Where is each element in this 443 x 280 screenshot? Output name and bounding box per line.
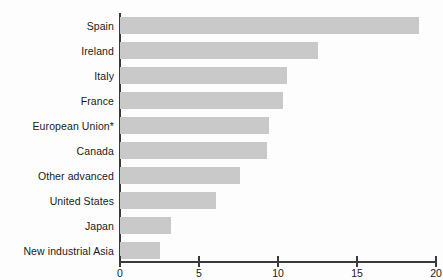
bar: [120, 42, 318, 59]
category-label-italy: Italy: [94, 70, 114, 82]
bar-row: France: [0, 88, 443, 113]
x-tick: [198, 256, 199, 267]
x-tick: [356, 256, 357, 267]
x-tick-label: 15: [351, 267, 363, 279]
bar-chart: SpainIrelandItalyFranceEuropean Union*Ca…: [0, 0, 443, 280]
bar: [120, 167, 240, 184]
category-label-united-states: United States: [50, 195, 114, 207]
category-label-other-advanced: Other advanced: [38, 170, 114, 182]
x-tick-label: 10: [272, 267, 284, 279]
bar-row: Ireland: [0, 38, 443, 63]
bar: [120, 117, 269, 134]
bar: [120, 17, 419, 34]
bar-row: United States: [0, 188, 443, 213]
category-label-canada: Canada: [77, 145, 114, 157]
bar-row: Other advanced: [0, 163, 443, 188]
bar-row: Japan: [0, 213, 443, 238]
bar: [120, 217, 171, 234]
bar-row: Canada: [0, 138, 443, 163]
category-label-ireland: Ireland: [81, 45, 114, 57]
bar-row: Spain: [0, 13, 443, 38]
category-label-spain: Spain: [87, 20, 114, 32]
plot-area: SpainIrelandItalyFranceEuropean Union*Ca…: [0, 0, 443, 280]
bar: [120, 192, 216, 209]
bar: [120, 67, 287, 84]
bar-row: European Union*: [0, 113, 443, 138]
bar: [120, 242, 160, 259]
category-label-japan: Japan: [85, 220, 114, 232]
x-tick-label: 0: [117, 267, 123, 279]
x-tick: [277, 256, 278, 267]
category-label-european-union: European Union*: [33, 120, 114, 132]
x-tick: [119, 256, 120, 267]
category-label-france: France: [81, 95, 114, 107]
bar-row: New industrial Asia: [0, 238, 443, 263]
bar: [120, 92, 283, 109]
bar: [120, 142, 267, 159]
x-tick-label: 5: [196, 267, 202, 279]
x-tick-label: 20: [430, 267, 442, 279]
bar-row: Italy: [0, 63, 443, 88]
category-label-new-industrial-asia: New industrial Asia: [23, 245, 114, 257]
x-tick: [435, 256, 436, 267]
